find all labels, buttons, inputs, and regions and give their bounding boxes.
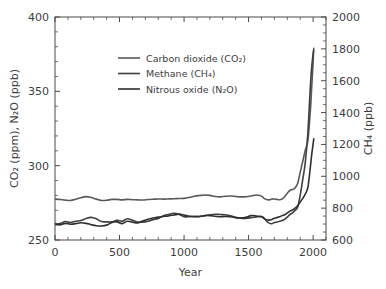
y-left-tick-label: 300 <box>28 160 49 173</box>
legend-label-n2o: Nitrous oxide (N₂O) <box>146 84 237 95</box>
y-right-tick-label: 2000 <box>332 11 360 24</box>
x-axis-title: Year <box>178 266 203 279</box>
plot-frame <box>55 17 326 240</box>
x-tick-label: 2000 <box>299 246 327 259</box>
y-right-tick-label: 1000 <box>332 170 360 183</box>
y-left-tick-label: 400 <box>28 11 49 24</box>
y-right-tick-label: 1800 <box>332 43 360 56</box>
x-tick-label: 1500 <box>235 246 263 259</box>
greenhouse-gas-concentration-chart: 0500100015002000 250300350400 6008001000… <box>0 0 386 289</box>
y-axis-right-title: CH₄ (ppb) <box>362 102 375 155</box>
x-tick-label: 1000 <box>170 246 198 259</box>
legend-label-co2: Carbon dioxide (CO₂) <box>146 53 246 64</box>
y-axis-left-title: CO₂ (ppm), N₂O (ppb) <box>8 69 21 188</box>
y-right-tick-label: 1200 <box>332 138 360 151</box>
x-tick-label: 500 <box>109 246 130 259</box>
y-right-tick-label: 1400 <box>332 107 360 120</box>
x-tick-label: 0 <box>52 246 59 259</box>
chart-canvas: 0500100015002000 250300350400 6008001000… <box>0 0 386 289</box>
y-left-tick-label: 350 <box>28 85 49 98</box>
y-axis-right-ticks: 600800100012001400160018002000 <box>321 11 360 247</box>
chart-legend: Carbon dioxide (CO₂)Methane (CH₄)Nitrous… <box>118 53 246 95</box>
legend-label-ch4: Methane (CH₄) <box>146 68 216 79</box>
y-right-tick-label: 1600 <box>332 75 360 88</box>
y-right-tick-label: 800 <box>332 202 353 215</box>
y-right-tick-label: 600 <box>332 234 353 247</box>
series-line-n2o <box>55 139 314 226</box>
plot-box <box>55 17 326 240</box>
y-left-tick-label: 250 <box>28 234 49 247</box>
